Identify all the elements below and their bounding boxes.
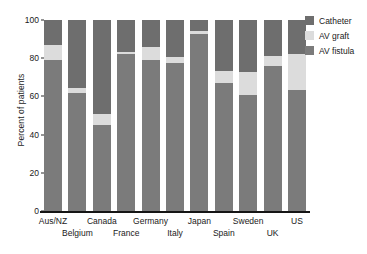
- bar-canada: [93, 20, 111, 211]
- bar-segment-av-fistula: [239, 95, 257, 212]
- legend-item: Catheter: [305, 14, 354, 27]
- x-tick-label-spain: Spain: [213, 228, 235, 238]
- bar-segment-catheter: [288, 20, 306, 54]
- bar-uk: [264, 20, 282, 211]
- x-tick-label-germany: Germany: [133, 216, 168, 226]
- bar-segment-av-graft: [68, 88, 86, 93]
- bar-japan: [190, 20, 208, 211]
- legend-swatch-icon: [305, 31, 314, 40]
- legend-label: AV fistula: [319, 46, 354, 56]
- bar-segment-av-fistula: [68, 93, 86, 211]
- bar-segment-catheter: [239, 20, 257, 72]
- bar-segment-av-graft: [215, 71, 233, 83]
- bar-italy: [166, 20, 184, 211]
- x-tick-label-belgium: Belgium: [62, 228, 93, 238]
- x-tick-label-japan: Japan: [188, 216, 211, 226]
- bar-aus-nz: [44, 20, 62, 211]
- x-tick-label-italy: Italy: [167, 228, 183, 238]
- x-tick-label-france: France: [113, 228, 139, 238]
- bar-segment-av-graft: [239, 72, 257, 95]
- bar-segment-av-graft: [44, 45, 62, 60]
- bar-segment-av-fistula: [264, 66, 282, 211]
- bar-segment-av-graft: [166, 57, 184, 63]
- legend-swatch-icon: [305, 16, 314, 25]
- bar-spain: [215, 20, 233, 211]
- x-tick-label-aus-nz: Aus/NZ: [39, 216, 67, 226]
- bar-segment-catheter: [68, 20, 86, 88]
- bar-segment-av-fistula: [44, 60, 62, 211]
- bar-segment-av-graft: [142, 47, 160, 60]
- bar-segment-av-fistula: [117, 54, 135, 211]
- legend-item: AV fistula: [305, 44, 354, 57]
- bar-segment-av-fistula: [166, 63, 184, 211]
- legend-item: AV graft: [305, 29, 354, 42]
- bar-segment-av-fistula: [93, 125, 111, 211]
- bar-segment-catheter: [44, 20, 62, 45]
- bar-germany: [142, 20, 160, 211]
- bar-segment-av-fistula: [190, 34, 208, 211]
- x-tick-label-uk: UK: [267, 228, 279, 238]
- bar-segment-av-graft: [117, 52, 135, 54]
- bar-belgium: [68, 20, 86, 211]
- bar-segment-catheter: [166, 20, 184, 57]
- bar-segment-catheter: [142, 20, 160, 47]
- bar-segment-av-graft: [264, 56, 282, 66]
- legend-swatch-icon: [305, 46, 314, 55]
- y-axis-title: Percent of patients: [16, 40, 26, 180]
- bar-segment-catheter: [264, 20, 282, 56]
- bar-us: [288, 20, 306, 211]
- legend-label: Catheter: [319, 16, 352, 26]
- plot-area: 020406080100: [44, 20, 306, 211]
- legend-label: AV graft: [319, 31, 349, 41]
- bar-segment-av-graft: [190, 31, 208, 34]
- chart-legend: CatheterAV graftAV fistula: [305, 14, 354, 59]
- bar-segment-av-fistula: [142, 60, 160, 211]
- x-tick-label-canada: Canada: [87, 216, 117, 226]
- bar-france: [117, 20, 135, 211]
- bar-segment-catheter: [215, 20, 233, 71]
- chart-figure: Percent of patients 020406080100 Aus/NZB…: [0, 0, 367, 254]
- bar-segment-av-fistula: [288, 90, 306, 211]
- bar-segment-catheter: [93, 20, 111, 114]
- bar-segment-av-graft: [93, 114, 111, 125]
- bar-segment-catheter: [190, 20, 208, 31]
- bar-segment-av-fistula: [215, 83, 233, 211]
- bar-sweden: [239, 20, 257, 211]
- x-tick-label-sweden: Sweden: [233, 216, 264, 226]
- bar-segment-catheter: [117, 20, 135, 52]
- x-axis-line: [40, 211, 310, 213]
- x-tick-label-us: US: [291, 216, 303, 226]
- bar-segment-av-graft: [288, 54, 306, 89]
